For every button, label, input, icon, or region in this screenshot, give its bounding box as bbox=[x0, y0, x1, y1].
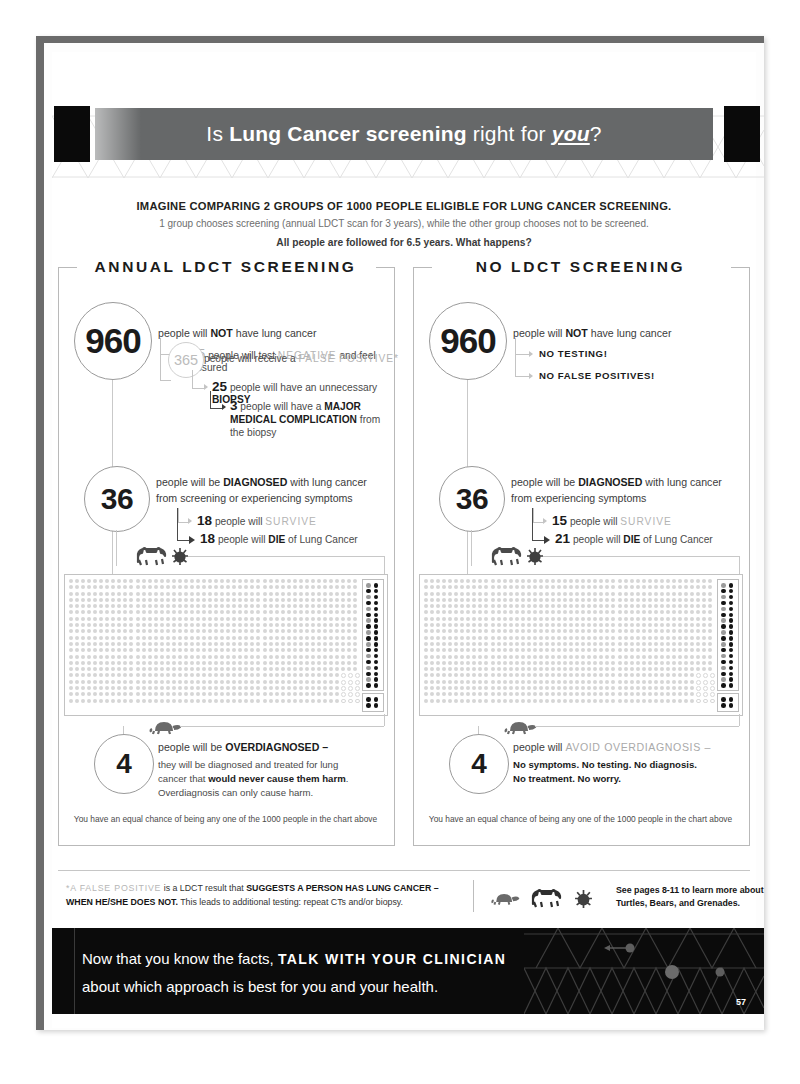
person-dot bbox=[154, 686, 158, 690]
person-dot bbox=[478, 592, 482, 596]
person-dot bbox=[329, 592, 333, 596]
person-dot bbox=[581, 699, 585, 703]
person-dot bbox=[287, 604, 291, 608]
light-dots-left bbox=[69, 579, 360, 710]
person-dot bbox=[123, 642, 127, 646]
person-dot bbox=[648, 642, 652, 646]
person-dot bbox=[244, 686, 248, 690]
connector-spine-36-right bbox=[471, 530, 472, 566]
person-dot bbox=[618, 585, 622, 589]
person-dot bbox=[81, 598, 85, 602]
person-dot bbox=[184, 667, 188, 671]
person-dot bbox=[611, 610, 615, 614]
person-dot bbox=[575, 579, 579, 583]
person-dot bbox=[87, 661, 91, 665]
person-dot bbox=[208, 699, 212, 703]
person-dot bbox=[618, 579, 622, 583]
person-dot bbox=[117, 623, 121, 627]
person-dot bbox=[202, 617, 206, 621]
person-dot bbox=[136, 629, 140, 633]
title-italic-you: you bbox=[552, 122, 590, 145]
person-dot bbox=[190, 642, 194, 646]
person-dot bbox=[708, 642, 712, 646]
connector-turtle-vert-right bbox=[739, 714, 740, 726]
person-dot bbox=[636, 686, 640, 690]
person-dot bbox=[678, 699, 682, 703]
person-dot bbox=[305, 598, 309, 602]
affected-person-dot bbox=[721, 648, 726, 653]
person-dot bbox=[184, 617, 188, 621]
person-dot bbox=[226, 673, 230, 677]
person-dot bbox=[93, 598, 97, 602]
person-dot bbox=[702, 667, 706, 671]
item-die-right: 21 people will DIE of Lung Cancer bbox=[555, 531, 750, 546]
person-dot bbox=[690, 692, 694, 696]
person-dot bbox=[684, 667, 688, 671]
person-dot bbox=[678, 648, 682, 652]
person-dot bbox=[587, 655, 591, 659]
person-dot bbox=[648, 623, 652, 627]
person-dot bbox=[442, 661, 446, 665]
person-dot bbox=[684, 617, 688, 621]
person-dot bbox=[202, 585, 206, 589]
person-dot bbox=[166, 604, 170, 608]
person-dot bbox=[353, 642, 357, 646]
person-dot bbox=[142, 610, 146, 614]
person-dot bbox=[442, 655, 446, 659]
person-dot bbox=[232, 642, 236, 646]
person-dot bbox=[196, 692, 200, 696]
person-dot bbox=[702, 592, 706, 596]
person-dot bbox=[484, 648, 488, 652]
person-dot bbox=[184, 636, 188, 640]
person-dot bbox=[587, 623, 591, 627]
dot-row bbox=[69, 629, 360, 635]
person-dot bbox=[491, 699, 495, 703]
person-dot bbox=[666, 692, 670, 696]
person-dot bbox=[442, 598, 446, 602]
person-dot bbox=[436, 579, 440, 583]
person-dot bbox=[497, 604, 501, 608]
person-dot bbox=[581, 579, 585, 583]
person-dot bbox=[99, 680, 103, 684]
person-dot bbox=[87, 648, 91, 652]
affected-person-dot bbox=[374, 648, 379, 653]
person-dot bbox=[672, 655, 676, 659]
person-dot bbox=[293, 617, 297, 621]
bear-icon-legend bbox=[528, 888, 564, 908]
person-dot bbox=[618, 604, 622, 608]
person-dot bbox=[263, 699, 267, 703]
person-dot bbox=[497, 648, 501, 652]
person-dot bbox=[232, 692, 236, 696]
person-dot bbox=[460, 667, 464, 671]
person-dot bbox=[117, 585, 121, 589]
person-dot bbox=[335, 585, 339, 589]
person-dot bbox=[690, 585, 694, 589]
person-dot bbox=[533, 610, 537, 614]
person-dot bbox=[642, 661, 646, 665]
person-dot bbox=[323, 680, 327, 684]
person-dot bbox=[442, 636, 446, 640]
person-dot bbox=[430, 598, 434, 602]
person-dot bbox=[269, 592, 273, 596]
person-dot bbox=[335, 636, 339, 640]
dot-row bbox=[69, 592, 360, 598]
person-dot bbox=[539, 655, 543, 659]
affected-person-dot bbox=[366, 595, 371, 600]
person-dot bbox=[250, 629, 254, 633]
person-dot bbox=[593, 585, 597, 589]
person-dot bbox=[129, 598, 133, 602]
person-dot bbox=[581, 667, 585, 671]
person-dot bbox=[166, 617, 170, 621]
person-dot bbox=[329, 686, 333, 690]
person-dot bbox=[557, 699, 561, 703]
person-dot bbox=[305, 686, 309, 690]
person-dot bbox=[648, 598, 652, 602]
person-dot bbox=[232, 598, 236, 602]
affected-person-dot bbox=[374, 624, 379, 629]
person-dot bbox=[311, 686, 315, 690]
person-dot bbox=[75, 699, 79, 703]
person-dot bbox=[160, 592, 164, 596]
person-dot bbox=[238, 617, 242, 621]
person-dot bbox=[636, 598, 640, 602]
item-survive-left: 18 people will SURVIVE bbox=[197, 513, 392, 528]
